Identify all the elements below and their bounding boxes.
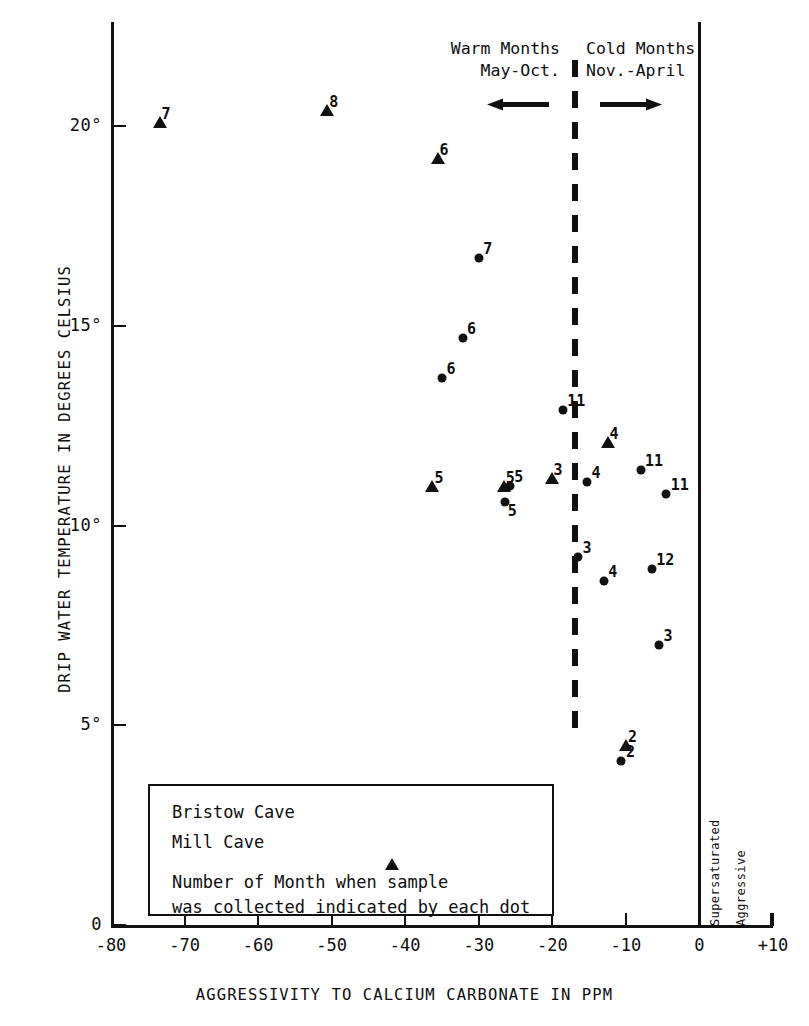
data-point-month-label: 11 — [645, 453, 663, 468]
data-point-month-label: 5 — [506, 471, 515, 486]
circle-marker-icon — [458, 333, 467, 342]
y-axis-tick — [113, 525, 126, 527]
data-point-month-label: 6 — [467, 321, 476, 336]
circle-marker-icon — [474, 253, 483, 262]
supersaturated-label: Supersaturated — [708, 819, 722, 926]
circle-marker-icon — [617, 757, 626, 766]
data-point-triangle: 6 — [431, 152, 445, 164]
circle-marker-icon — [582, 477, 591, 486]
circle-marker-icon — [438, 373, 447, 382]
data-point-month-label: 8 — [329, 95, 338, 110]
x-axis-tick-label: -20 — [537, 935, 568, 955]
data-point-month-label: 6 — [440, 143, 449, 158]
x-axis-tick-label: -10 — [611, 935, 642, 955]
x-axis-tick-label: -30 — [463, 935, 494, 955]
x-axis-title: AGGRESSIVITY TO CALCIUM CARBONATE IN PPM — [0, 986, 809, 1004]
legend-row-bristow-cave: Bristow Cave — [172, 800, 552, 830]
arrow-right-icon — [600, 98, 662, 111]
x-axis-tick-label: -60 — [243, 935, 274, 955]
data-point-month-label: 5 — [434, 471, 443, 486]
data-point-circle: 6 — [458, 333, 467, 342]
data-point-triangle: 8 — [320, 104, 334, 116]
y-axis-tick-label: 0 — [30, 914, 102, 934]
circle-marker-icon — [558, 405, 567, 414]
circle-marker-icon — [636, 465, 645, 474]
data-point-month-label: 7 — [162, 107, 171, 122]
x-axis-tick-label: -80 — [96, 935, 127, 955]
data-point-circle: 4 — [582, 477, 591, 486]
data-point-month-label: 12 — [656, 553, 674, 568]
data-point-month-label: 4 — [591, 465, 600, 480]
x-axis-tick-label: +10 — [758, 935, 789, 955]
data-point-circle: 6 — [438, 373, 447, 382]
y-axis-tick — [113, 724, 126, 726]
legend-label-mill-cave: Mill Cave — [172, 832, 264, 852]
zero-ppm-reference-line — [698, 22, 701, 925]
data-point-month-label: 7 — [483, 241, 492, 256]
data-point-month-label: 4 — [610, 427, 619, 442]
data-point-triangle: 3 — [545, 472, 559, 484]
x-axis-tick-label: -40 — [390, 935, 421, 955]
data-point-circle: 11 — [662, 489, 671, 498]
data-point-month-label: 6 — [447, 361, 456, 376]
data-point-triangle: 4 — [601, 436, 615, 448]
x-axis-tick — [625, 913, 627, 926]
y-axis-tick-label: 20° — [30, 115, 102, 135]
data-point-month-label: 5 — [508, 503, 517, 518]
aggressive-label: Aggressive — [734, 850, 748, 926]
legend-note-line1: Number of Month when sample — [172, 870, 552, 895]
data-point-triangle: 5 — [425, 480, 439, 492]
circle-marker-icon — [599, 577, 608, 586]
arrow-left-icon — [487, 98, 549, 111]
data-point-circle: 12 — [647, 565, 656, 574]
data-point-circle: 3 — [574, 553, 583, 562]
legend-row-mill-cave: Mill Cave — [172, 830, 552, 860]
y-axis-title: DRIP WATER TEMPERATURE IN DEGREES CELSIU… — [56, 169, 74, 789]
circle-marker-icon — [574, 553, 583, 562]
circle-marker-icon — [654, 641, 663, 650]
data-point-month-label: 11 — [567, 393, 585, 408]
data-point-circle: 3 — [654, 641, 663, 650]
data-point-circle: 4 — [599, 577, 608, 586]
legend-label-bristow-cave: Bristow Cave — [172, 802, 295, 822]
warm-months-line1: Warm Months — [380, 38, 560, 60]
data-point-month-label: 5 — [514, 469, 523, 484]
warm-months-annotation: Warm Months May-Oct. — [380, 38, 560, 83]
y-axis-tick — [113, 924, 126, 926]
circle-marker-icon — [647, 565, 656, 574]
y-axis-tick — [113, 125, 126, 127]
x-axis-tick — [772, 913, 774, 926]
data-point-month-label: 4 — [608, 565, 617, 580]
legend-marker-triangle-icon — [385, 838, 399, 858]
y-axis-line — [111, 22, 114, 927]
data-point-triangle: 5 — [497, 480, 511, 492]
x-axis-line — [111, 925, 773, 928]
legend-note: Number of Month when sample was collecte… — [172, 870, 552, 919]
legend-note-line2: was collected indicated by each dot — [172, 895, 552, 920]
cold-months-line1: Cold Months — [586, 38, 786, 60]
data-point-month-label: 3 — [583, 541, 592, 556]
y-axis-tick — [113, 325, 126, 327]
data-point-circle: 2 — [617, 757, 626, 766]
warm-months-line2: May-Oct. — [380, 60, 560, 82]
data-point-circle: 5 — [501, 497, 510, 506]
data-point-month-label: 2 — [628, 730, 637, 745]
data-point-month-label: 3 — [554, 463, 563, 478]
cold-months-annotation: Cold Months Nov.-April — [586, 38, 786, 83]
data-point-triangle: 2 — [619, 739, 633, 751]
cold-months-line2: Nov.-April — [586, 60, 786, 82]
data-point-month-label: 3 — [663, 629, 672, 644]
x-axis-tick-label: -50 — [316, 935, 347, 955]
x-axis-tick-label: 0 — [694, 935, 704, 955]
data-point-month-label: 11 — [671, 477, 689, 492]
scatter-chart-figure: 05°10°15°20° -80-70-60-50-40-30-20-100+1… — [0, 0, 809, 1026]
data-point-circle: 7 — [474, 253, 483, 262]
data-point-circle: 11 — [636, 465, 645, 474]
data-point-triangle: 7 — [153, 116, 167, 128]
x-axis-tick-label: -70 — [169, 935, 200, 955]
circle-marker-icon — [662, 489, 671, 498]
chart-legend: Bristow Cave Mill Cave Number of Month w… — [148, 784, 554, 916]
data-point-circle: 11 — [558, 405, 567, 414]
